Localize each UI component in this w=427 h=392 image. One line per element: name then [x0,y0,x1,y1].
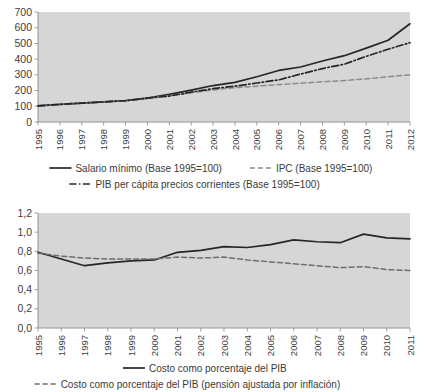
x-tick-label: 1995 [33,129,44,150]
y-tick-label: 0,4 [17,283,32,295]
y-tick-label: 0 [26,116,32,128]
x-tick-label: 1996 [54,129,65,150]
y-tick-label: 700 [14,6,32,18]
y-tick-label: 1,2 [17,207,32,219]
plot-background [38,213,410,328]
y-tick-label: 400 [14,53,32,65]
x-tick-label: 1997 [76,129,87,150]
x-tick-label: 2010 [381,335,392,356]
legend-label: Costo como porcentaje del PIB [149,363,287,374]
x-tick-label: 2003 [208,129,219,150]
x-tick-label: 2002 [195,335,206,356]
plot-background [38,12,410,122]
x-tick-label: 1996 [56,335,67,356]
y-tick-label: 0,8 [17,245,32,257]
x-tick-label: 2007 [295,129,306,150]
legend-label: Costo como porcentaje del PIB (pensión a… [61,379,341,390]
y-tick-label: 600 [14,21,32,33]
x-tick-label: 2005 [251,129,262,150]
x-tick-label: 1995 [33,335,44,356]
legend-label: Salario mínimo (Base 1995=100) [75,163,221,174]
y-tick-label: 0,2 [17,302,32,314]
x-tick-label: 2001 [164,129,175,150]
x-tick-label: 2004 [230,129,241,150]
legend-label: PIB per cápita precios corrientes (Base … [95,179,319,190]
x-tick-label: 1999 [126,335,137,356]
x-tick-label: 2010 [361,129,372,150]
x-tick-label: 2000 [149,335,160,356]
y-tick-label: 100 [14,100,32,112]
chart-cost-as-percent-gdp: 0,00,20,40,60,81,01,21995199619971998199… [0,200,427,392]
x-tick-label: 2003 [219,335,230,356]
x-tick-label: 2009 [339,129,350,150]
x-tick-label: 2001 [172,335,183,356]
x-tick-label: 2000 [142,129,153,150]
x-tick-label: 2002 [186,129,197,150]
y-tick-label: 200 [14,84,32,96]
y-tick-label: 500 [14,37,32,49]
y-tick-label: 300 [14,68,32,80]
x-tick-label: 2007 [312,335,323,356]
chart-bottom-svg: 0,00,20,40,60,81,01,21995199619971998199… [0,200,427,392]
x-tick-label: 2009 [358,335,369,356]
x-tick-label: 1997 [79,335,90,356]
x-tick-label: 1999 [120,129,131,150]
chart-top-svg: 0100200300400500600700199519961997199819… [0,0,427,200]
legend-label: IPC (Base 1995=100) [276,163,372,174]
x-tick-label: 2006 [288,335,299,356]
x-tick-label: 2008 [317,129,328,150]
x-tick-label: 1998 [98,129,109,150]
x-tick-label: 2011 [383,129,394,149]
x-tick-label: 2004 [242,335,253,356]
x-tick-label: 2012 [405,129,416,150]
x-tick-label: 2008 [335,335,346,356]
x-tick-label: 2011 [405,335,416,355]
x-tick-label: 2006 [273,129,284,150]
x-tick-label: 2005 [265,335,276,356]
x-tick-label: 1998 [102,335,113,356]
y-tick-label: 1,0 [17,226,32,238]
chart-minimum-wage-cpi-gdp: 0100200300400500600700199519961997199819… [0,0,427,200]
y-tick-label: 0,0 [17,322,32,334]
y-tick-label: 0,6 [17,264,32,276]
